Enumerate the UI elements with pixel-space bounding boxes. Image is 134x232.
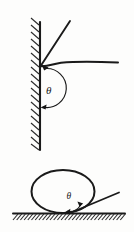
theta-label-bottom: θ [67, 191, 72, 201]
figure-container: θ [0, 0, 134, 232]
theta-label-top: θ [46, 84, 52, 96]
contact-angle-figure: θ [0, 0, 134, 232]
